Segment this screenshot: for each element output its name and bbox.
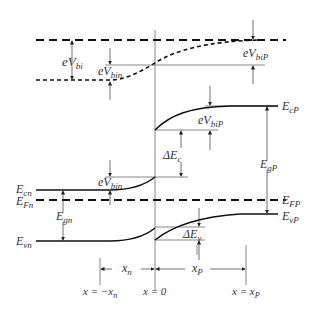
label-EFP: EFP: [281, 193, 301, 209]
label-eVbiP-top: eVbiP: [243, 46, 269, 62]
label-xn: xn: [121, 261, 132, 277]
label-eVbin-lower: eVbin: [98, 175, 123, 191]
label-EgP: EgP: [259, 157, 278, 173]
label-Egn: Egn: [55, 209, 73, 225]
label-dEc: ΔEc: [162, 148, 181, 164]
label-xp: xP: [191, 261, 203, 277]
valence-band-n: [36, 228, 155, 241]
label-eVbin-top: eVbin: [98, 64, 123, 80]
label-eVbiP-lower: eVbiP: [198, 113, 224, 129]
label-EvP: EvP: [281, 209, 299, 225]
label-EcP: EcP: [281, 99, 299, 115]
label-Evn: Evn: [15, 234, 32, 250]
conduction-band-n: [36, 177, 155, 190]
axis-label-center: x = 0: [142, 285, 167, 297]
label-dEv: ΔEv: [182, 227, 201, 243]
band-diagram: eVbi eVbin eVbiP eVbiP EcP ΔEc EgP eVbin…: [0, 0, 311, 310]
label-eVbi: eVbi: [62, 54, 83, 71]
axis-label-right: x = xP: [231, 285, 260, 300]
axis-label-left: x = −xn: [82, 285, 117, 300]
